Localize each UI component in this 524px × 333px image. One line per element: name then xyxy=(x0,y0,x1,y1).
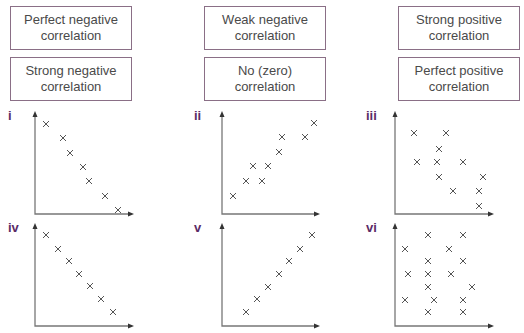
graph-v xyxy=(220,223,321,329)
axes xyxy=(222,227,316,326)
y-axis-arrow-icon xyxy=(393,223,398,229)
x-axis-arrow-icon xyxy=(488,212,494,217)
graph-ii xyxy=(220,111,321,217)
x-axis-arrow-icon xyxy=(314,324,320,329)
x-axis-arrow-icon xyxy=(488,324,494,329)
axes xyxy=(395,227,490,326)
graph-iii xyxy=(393,111,495,217)
graph-vi xyxy=(393,223,495,329)
y-axis-arrow-icon xyxy=(33,223,38,229)
y-axis-arrow-icon xyxy=(220,111,225,117)
y-axis-arrow-icon xyxy=(393,111,398,117)
axes xyxy=(395,115,490,214)
x-axis-arrow-icon xyxy=(128,212,134,217)
axes xyxy=(35,227,130,326)
x-axis-arrow-icon xyxy=(314,212,320,217)
scatter-graphs xyxy=(0,0,524,333)
axes xyxy=(35,115,130,214)
graph-iv xyxy=(33,223,135,329)
y-axis-arrow-icon xyxy=(33,111,38,117)
graph-i xyxy=(33,111,135,217)
x-axis-arrow-icon xyxy=(128,324,134,329)
y-axis-arrow-icon xyxy=(220,223,225,229)
